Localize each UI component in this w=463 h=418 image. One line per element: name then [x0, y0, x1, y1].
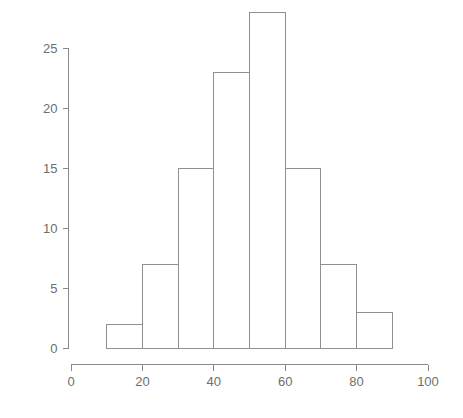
y-axis-tick-label: 15	[43, 161, 57, 176]
histogram-bar	[285, 168, 321, 348]
histogram-chart: 0510152025 020406080100	[0, 0, 463, 418]
histogram-bars	[107, 12, 393, 348]
histogram-bar	[321, 264, 357, 348]
y-axis-tick-label: 25	[43, 41, 57, 56]
y-axis-tick-label: 10	[43, 221, 57, 236]
histogram-bar	[142, 264, 178, 348]
chart-canvas: 0510152025 020406080100	[0, 0, 463, 418]
x-axis-tick-label: 20	[135, 374, 149, 389]
histogram-bar	[214, 72, 250, 348]
y-axis-tick-label: 5	[50, 281, 57, 296]
x-axis-tick-label: 0	[67, 374, 74, 389]
y-axis: 0510152025	[43, 41, 68, 356]
histogram-bar	[178, 168, 214, 348]
x-axis-tick-label: 60	[278, 374, 292, 389]
x-axis-tick-label: 40	[207, 374, 221, 389]
histogram-bar	[107, 324, 143, 348]
y-axis-tick-label: 20	[43, 101, 57, 116]
x-axis-tick-label: 80	[349, 374, 363, 389]
y-axis-tick-label: 0	[50, 341, 57, 356]
histogram-bar	[250, 12, 286, 348]
x-axis-tick-label: 100	[417, 374, 439, 389]
x-axis: 020406080100	[67, 365, 438, 389]
histogram-bar	[357, 312, 393, 348]
